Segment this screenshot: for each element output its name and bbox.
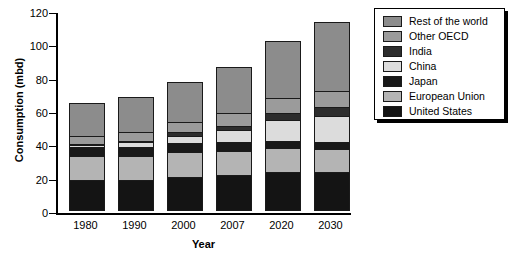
bar-segment [217,152,251,176]
y-tick-label: 80 [12,74,48,86]
y-tick-mark [49,213,56,214]
bar-segment [119,157,153,181]
legend-item-india[interactable]: India [375,44,504,58]
bar-segment [217,114,251,127]
y-axis-line [56,13,58,214]
bar-segment [315,173,349,211]
y-tick-label: 40 [12,140,48,152]
bar-segment [217,131,251,144]
bar-segment [168,153,202,177]
bar-segment [119,98,153,133]
bar-segment [315,92,349,109]
bar-segment [266,142,300,150]
bar-1980[interactable] [69,103,105,211]
legend-swatch [383,106,402,117]
legend-label: China [409,61,436,72]
legend-swatch [383,76,402,87]
bar-segment [266,121,300,142]
bar-segment [70,137,104,145]
y-tick-label: 20 [12,174,48,186]
y-tick-label: 120 [12,7,48,19]
legend-item-european-union[interactable]: European Union [375,89,504,103]
bar-segment [266,149,300,173]
bar-segment [168,178,202,211]
legend-label: European Union [409,91,485,102]
bar-segment [70,181,104,210]
bar-2020[interactable] [265,41,301,211]
bar-segment [119,133,153,141]
bar-segment [266,114,300,121]
bar-segment [168,144,202,153]
y-tick-label: 60 [12,107,48,119]
legend-swatch [383,91,402,102]
bar-2030[interactable] [314,22,350,211]
legend-swatch [383,31,402,42]
y-tick-label: 100 [12,40,48,52]
bar-2000[interactable] [167,82,203,211]
bar-segment [315,108,349,116]
bar-segment [119,181,153,210]
legend-label: Japan [409,76,438,87]
y-tick-label: 0 [12,207,48,219]
bar-segment [70,157,104,181]
legend-item-united-states[interactable]: United States [375,104,504,118]
bar-segment [315,150,349,173]
y-tick-mark [49,113,56,114]
bar-segment [315,23,349,92]
legend-label: United States [409,106,472,117]
bar-segment [217,68,251,115]
legend-item-rest-of-the-world[interactable]: Rest of the world [375,14,504,28]
legend-swatch [383,61,402,72]
legend-item-china[interactable]: China [375,59,504,73]
legend-swatch [383,46,402,57]
bar-segment [217,176,251,210]
y-tick-mark [49,180,56,181]
legend-swatch [383,16,402,27]
legend-item-japan[interactable]: Japan [375,74,504,88]
legend-label: Rest of the world [409,16,488,27]
y-tick-mark [49,13,56,14]
bar-segment [217,143,251,151]
bar-segment [315,117,349,143]
plot-area: 020406080100120 198019902000200720202030 [56,13,350,213]
x-tick-label: 2030 [301,219,361,231]
x-axis-title: Year [56,238,351,250]
y-tick-mark [49,80,56,81]
bar-segment [168,123,202,134]
chart-legend: Rest of the worldOther OECDIndiaChinaJap… [374,8,505,120]
bar-segment [70,148,104,156]
bar-2007[interactable] [216,67,252,211]
bar-segment [168,137,202,145]
bar-segment [266,173,300,210]
y-tick-mark [49,46,56,47]
bar-segment [266,42,300,100]
bar-segment [70,104,104,137]
legend-item-other-oecd[interactable]: Other OECD [375,29,504,43]
bar-1990[interactable] [118,97,154,211]
bar-segment [315,143,349,151]
bar-segment [266,99,300,114]
y-tick-mark [49,146,56,147]
bar-segment [168,83,202,123]
legend-label: Other OECD [409,31,469,42]
chart-container: Consumption (mbd) 020406080100120 198019… [0,0,514,263]
bar-segment [119,148,153,157]
legend-label: India [409,46,432,57]
x-axis-line [56,213,351,215]
